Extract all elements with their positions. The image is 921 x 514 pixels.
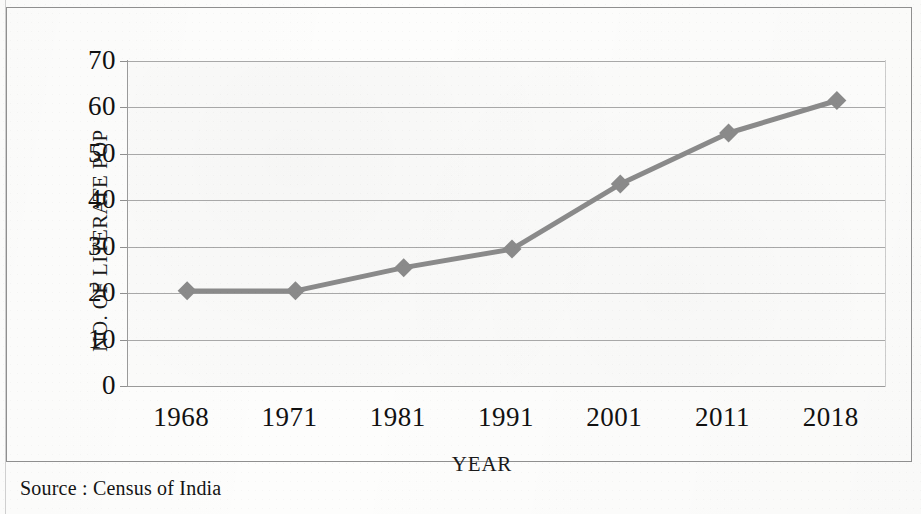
gridline — [128, 107, 885, 108]
y-axis-line — [127, 60, 128, 387]
x-tick-label: 1991 — [446, 404, 566, 431]
x-tick-label: 2001 — [554, 404, 674, 431]
plot-area — [127, 61, 885, 386]
x-tick-label: 2018 — [771, 404, 891, 431]
y-axis-title-container: NO. OF LITERATE POP — [45, 53, 69, 383]
source-note: Source : Census of India — [20, 477, 221, 500]
y-tickmark — [120, 107, 127, 108]
x-tick-label: 1968 — [121, 404, 241, 431]
x-tick-label: 2011 — [663, 404, 783, 431]
gridline — [128, 154, 885, 155]
gridline — [128, 247, 885, 248]
scanned-page: 010203040506070 NO. OF LITERATE POP 1968… — [0, 0, 921, 514]
plot-right-edge — [885, 60, 886, 387]
y-tickmark — [120, 154, 127, 155]
y-tickmark — [120, 247, 127, 248]
x-tick-label: 1971 — [229, 404, 349, 431]
y-tickmark — [120, 61, 127, 62]
y-tickmark — [120, 386, 127, 387]
y-tickmark — [120, 340, 127, 341]
x-tick-label: 1981 — [338, 404, 458, 431]
y-tickmark — [120, 200, 127, 201]
gridline — [128, 200, 885, 201]
gridline — [128, 293, 885, 294]
figure-border: 010203040506070 NO. OF LITERATE POP 1968… — [6, 7, 912, 462]
x-axis-title: YEAR — [412, 452, 552, 477]
gridline — [128, 340, 885, 341]
x-axis-line — [127, 386, 886, 387]
y-tickmark — [120, 293, 127, 294]
gridline — [128, 61, 885, 62]
y-axis-title: NO. OF LITERATE POP — [88, 91, 113, 391]
